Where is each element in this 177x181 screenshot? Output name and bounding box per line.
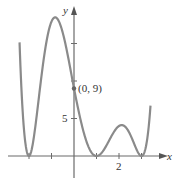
- x-tick-label-2: 2: [116, 160, 122, 172]
- y-axis-arrow-icon: [71, 6, 77, 15]
- point-label: (0, 9): [78, 82, 102, 95]
- y-tick-label-5: 5: [62, 112, 68, 124]
- x-axis-label: x: [166, 150, 172, 162]
- graph: x y (0, 9) 5 2: [0, 0, 177, 181]
- y-intercept-point: [72, 86, 76, 90]
- y-axis-label: y: [62, 4, 68, 16]
